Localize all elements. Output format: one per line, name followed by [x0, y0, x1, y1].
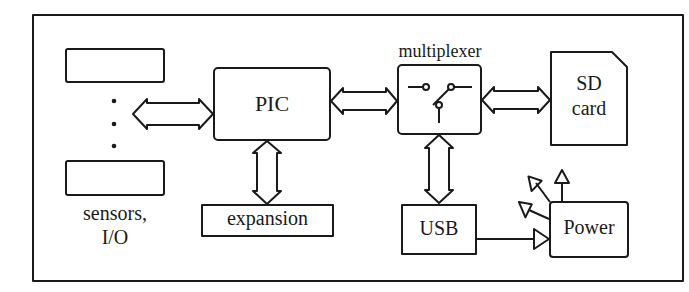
power-output-line-3: [529, 210, 549, 219]
sensor-box-top: [66, 49, 164, 82]
power-output-arrowhead-1: [555, 170, 569, 183]
block-diagram: [0, 0, 689, 292]
bus-arrow-multiplexer-sd: [482, 87, 550, 113]
sd-label-line2: card: [551, 98, 627, 119]
switch-icon: [408, 84, 472, 123]
pic-label: PIC: [214, 92, 330, 115]
power-output-arrowhead-3: [517, 202, 532, 218]
sensor-box-bottom: [66, 161, 164, 195]
bus-arrow-sensors-pic: [133, 99, 213, 129]
expansion-label: expansion: [202, 208, 333, 229]
ellipsis-dots: [112, 99, 117, 149]
usb-label: USB: [402, 218, 476, 239]
bus-arrow-multiplexer-usb: [425, 135, 453, 203]
bus-arrow-pic-expansion: [253, 141, 281, 204]
sd-label-line1: SD: [551, 73, 627, 94]
bus-arrow-pic-multiplexer: [331, 88, 397, 114]
multiplexer-label: multiplexer: [380, 42, 500, 61]
sensors-label-line2: I/O: [66, 227, 164, 248]
sensors-label-line1: sensors,: [66, 203, 164, 224]
usb-power-arrowhead: [534, 229, 549, 249]
power-label: Power: [550, 217, 628, 238]
